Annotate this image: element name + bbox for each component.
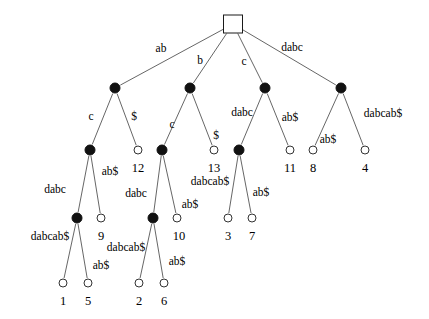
leaf-node <box>160 279 169 288</box>
leaf-index-label: 5 <box>85 295 91 308</box>
leaf-index-label: 13 <box>208 162 221 175</box>
tree-edge <box>154 224 163 278</box>
leaf-index-label: 3 <box>225 230 231 243</box>
edge-label: dabcab$ <box>364 108 402 120</box>
edge-label: dabc <box>125 188 147 200</box>
edge-label: b <box>197 55 203 67</box>
edge-label: dabc <box>281 42 303 54</box>
tree-edge <box>240 156 251 213</box>
tree-edge <box>154 156 161 212</box>
tree-edge <box>164 93 187 144</box>
edge-label: c <box>169 119 174 131</box>
internal-node <box>157 145 168 156</box>
edge-label: ab$ <box>182 199 199 211</box>
tree-edge <box>120 29 224 85</box>
leaf-index-label: 2 <box>136 295 142 308</box>
leaf-index-label: 4 <box>362 162 368 175</box>
tree-edge <box>192 94 212 146</box>
edge-label: ab <box>156 43 167 55</box>
edge-label: dabc <box>231 107 253 119</box>
edge-label: dabcab$ <box>191 176 229 188</box>
leaf-node <box>248 214 257 223</box>
edge-label: dabcab$ <box>107 242 145 254</box>
tree-edge <box>241 94 262 145</box>
tree-edge <box>242 29 336 85</box>
leaf-node <box>84 279 93 288</box>
edge-label: ab$ <box>93 260 110 272</box>
leaf-index-label: 1 <box>60 295 66 308</box>
tree-edge <box>229 156 238 213</box>
leaf-node <box>97 214 106 223</box>
edge-label: ab$ <box>320 134 337 146</box>
leaf-index-label: 10 <box>173 230 186 243</box>
leaf-node <box>309 146 318 155</box>
leaf-index-label: 12 <box>132 162 145 175</box>
edge-label: ab$ <box>282 112 299 124</box>
edge-label: c <box>88 111 93 123</box>
leaf-node <box>286 146 295 155</box>
tree-edge <box>343 94 363 146</box>
internal-node <box>110 83 121 94</box>
internal-node <box>148 213 159 224</box>
edge-label: $ <box>213 130 219 142</box>
leaf-node <box>361 146 370 155</box>
leaf-index-label: 6 <box>161 295 167 308</box>
edge-label: ab$ <box>169 256 186 268</box>
root-node <box>223 15 243 34</box>
tree-edge <box>91 156 100 213</box>
tree-edge <box>78 224 87 278</box>
tree-edge <box>163 156 176 213</box>
tree-edge-layer <box>0 0 429 319</box>
suffix-tree-figure: abbcdabcc$c$dabcab$ab$dabcab$dabcab$dabc… <box>0 0 429 319</box>
edge-label: $ <box>131 111 137 123</box>
leaf-node <box>134 146 143 155</box>
leaf-node <box>173 214 182 223</box>
leaf-node <box>59 279 68 288</box>
internal-node <box>72 213 83 224</box>
leaf-node <box>224 214 233 223</box>
edge-label: dabcab$ <box>31 231 69 243</box>
leaf-index-label: 7 <box>249 230 255 243</box>
edge-label: c <box>241 56 246 68</box>
edge-label: ab$ <box>253 187 270 199</box>
leaf-index-label: 9 <box>98 230 104 243</box>
leaf-index-label: 8 <box>310 162 316 175</box>
internal-node <box>185 83 196 94</box>
internal-node <box>85 145 96 156</box>
tree-edge <box>78 156 89 212</box>
leaf-node <box>210 146 219 155</box>
edge-label: ab$ <box>102 166 119 178</box>
leaf-index-label: 11 <box>284 162 296 175</box>
leaf-node <box>135 279 144 288</box>
internal-node <box>234 145 245 156</box>
tree-edge <box>92 94 113 145</box>
internal-node <box>336 83 347 94</box>
edge-label: dabc <box>44 184 66 196</box>
internal-node <box>260 83 271 94</box>
